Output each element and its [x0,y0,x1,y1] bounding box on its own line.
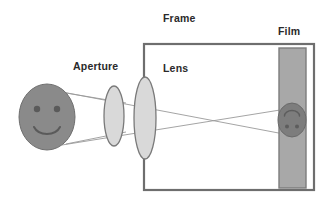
face-head [19,84,75,150]
label-aperture: Aperture [73,61,118,72]
label-lens: Lens [163,63,188,74]
lens-ellipse [134,77,156,159]
inverted-face-eye-right [295,125,299,129]
light-ray-bundle [62,92,305,145]
label-film: Film [278,26,300,37]
smiley-face-object [19,84,75,150]
inverted-smiley-image [278,103,306,137]
ray-bottom-to-top [62,106,305,145]
inverted-face-eye-left [285,125,289,129]
optics-diagram-root: Frame Aperture Lens Film [0,0,334,205]
aperture-ellipse [104,86,124,146]
face-eye-right [54,106,60,112]
ray-top-to-bottom [62,92,305,138]
label-frame: Frame [163,13,196,24]
face-eye-left [34,106,40,112]
inverted-face-head [278,103,306,137]
